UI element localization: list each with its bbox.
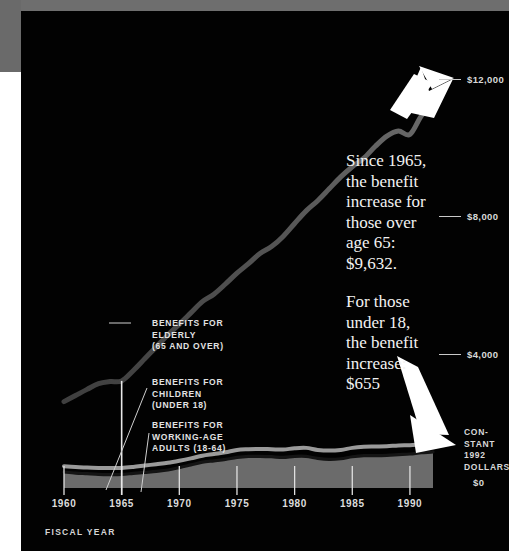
x-tick-label-1960: 1960 [52, 498, 77, 509]
callout-elderly-line-1: BENEFITS FOR [152, 318, 224, 330]
y-tick-label: $8,000 [467, 211, 498, 222]
plot-inner: $12,000 $8,000 $4,000 $0 CON- STANT 1992… [21, 11, 509, 551]
callout-children-line-3: (UNDER 18) [152, 400, 223, 412]
annotation-bottom-line-2: under 18, [346, 313, 418, 334]
callout-children-line-1: BENEFITS FOR [152, 377, 223, 389]
annotation-elderly-increase: Since 1965, the benefit increase for tho… [346, 151, 426, 274]
annotation-top-line-5: age 65: [346, 233, 426, 254]
page-edge-gray-block [0, 0, 21, 72]
units-label: CON- STANT 1992 DOLLARS [464, 427, 509, 473]
annotation-bottom-line-3: the benefit [346, 333, 418, 354]
x-axis-title: FISCAL YEAR [45, 527, 116, 537]
plot-area: $12,000 $8,000 $4,000 $0 CON- STANT 1992… [21, 11, 509, 551]
annotation-top-line-2: the benefit [346, 172, 426, 193]
units-line-2: STANT [464, 439, 509, 451]
annotation-bottom-line-1: For those [346, 292, 418, 313]
annotation-children-increase: For those under 18, the benefit increase… [346, 292, 418, 395]
y-tick-rule [439, 354, 461, 355]
y-tick-0: $0 [467, 477, 484, 488]
callout-working-line-1: BENEFITS FOR [152, 420, 226, 432]
annotation-top-line-3: increase for [346, 192, 426, 213]
units-line-3: 1992 [464, 450, 509, 462]
callout-children-line-2: CHILDREN [152, 389, 223, 401]
y-tick-rule [439, 216, 461, 217]
y-tick-label: $4,000 [467, 349, 498, 360]
chart-svg [21, 11, 509, 551]
annotation-top-line-4: those over [346, 213, 426, 234]
y-tick-rule [439, 79, 461, 80]
y-tick-label: $12,000 [467, 74, 504, 85]
units-line-4: DOLLARS [464, 462, 509, 474]
x-tick-label-1980: 1980 [282, 498, 307, 509]
x-tick-label-1970: 1970 [167, 498, 192, 509]
units-line-1: CON- [464, 427, 509, 439]
callout-working-line-2: WORKING-AGE [152, 432, 226, 444]
callout-elderly: BENEFITS FOR ELDERLY (65 AND OVER) [152, 318, 224, 353]
annotation-top-line-6: $9,632. [346, 254, 426, 275]
callout-elderly-line-3: (65 AND OVER) [152, 341, 224, 353]
page-edge-gray-top [0, 0, 509, 11]
y-tick-label: $0 [473, 477, 484, 488]
y-tick-4000: $4,000 [439, 349, 498, 360]
chart-figure: $12,000 $8,000 $4,000 $0 CON- STANT 1992… [0, 0, 509, 551]
x-tick-label-1985: 1985 [340, 498, 365, 509]
callout-working-age: BENEFITS FOR WORKING-AGE ADULTS (18-64) [152, 420, 226, 455]
callout-working-line-3: ADULTS (18-64) [152, 443, 226, 455]
annotation-bottom-line-5: $655 [346, 374, 418, 395]
page-edge-white-left [0, 72, 21, 551]
x-tick-label-1975: 1975 [225, 498, 250, 509]
y-tick-8000: $8,000 [439, 211, 498, 222]
y-tick-12000: $12,000 [439, 74, 504, 85]
x-tick-label-1990: 1990 [398, 498, 423, 509]
x-tick-label-1965: 1965 [109, 498, 134, 509]
annotation-top-line-1: Since 1965, [346, 151, 426, 172]
annotation-bottom-line-4: increase: [346, 354, 418, 375]
callout-elderly-line-2: ELDERLY [152, 330, 224, 342]
x-axis-labels: 1960196519701975198019851990 [21, 498, 509, 520]
callout-children: BENEFITS FOR CHILDREN (UNDER 18) [152, 377, 223, 412]
